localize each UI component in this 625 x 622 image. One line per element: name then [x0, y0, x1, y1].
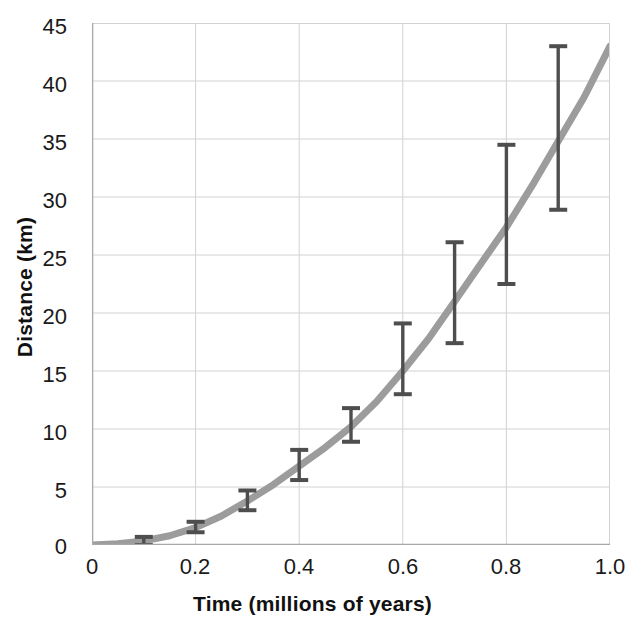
y-tick-label-5: 5 [7, 480, 67, 502]
x-tick-label-0p4: 0.4 [264, 556, 334, 578]
error-bars [135, 46, 567, 545]
plot-svg [92, 23, 610, 545]
y-tick-label-45: 45 [7, 16, 67, 38]
y-tick-label-15: 15 [7, 364, 67, 386]
x-tick-label-0p8: 0.8 [471, 556, 541, 578]
y-tick-label-20: 20 [7, 306, 67, 328]
x-tick-label-0p6: 0.6 [368, 556, 438, 578]
y-tick-label-10: 10 [7, 422, 67, 444]
y-tick-label-30: 30 [7, 190, 67, 212]
gridlines [92, 23, 610, 545]
chart-figure: Distance (km) Time (millions of years) 4… [0, 0, 625, 622]
y-tick-label-40: 40 [7, 74, 67, 96]
model-curve [92, 46, 610, 545]
y-tick-label-0: 0 [7, 536, 67, 558]
axis-frame [92, 23, 610, 545]
x-tick-label-1p0: 1.0 [575, 556, 625, 578]
x-tick-label-0: 0 [57, 556, 127, 578]
x-axis-title: Time (millions of years) [0, 592, 625, 616]
plot-area [92, 23, 610, 545]
y-tick-label-25: 25 [7, 248, 67, 270]
x-tick-label-0p2: 0.2 [160, 556, 230, 578]
y-tick-label-35: 35 [7, 132, 67, 154]
